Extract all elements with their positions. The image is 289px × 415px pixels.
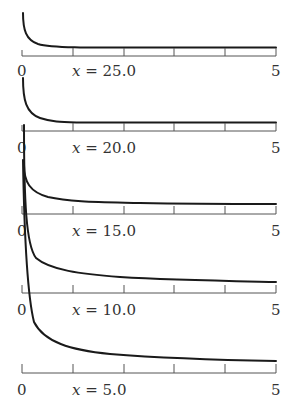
tick-label-left: 0 (17, 62, 27, 80)
panel-title: x = 5.0 (72, 381, 126, 399)
tick-label-right: 5 (271, 381, 281, 399)
panel-title: x = 20.0 (72, 139, 136, 157)
stacked-decay-chart: 0 x = 25.0 5 0 x = 20.0 5 0 x = 15.0 5 (0, 0, 289, 415)
panel-title: x = 15.0 (72, 222, 136, 240)
panel-x-25: 0 x = 25.0 5 (17, 13, 281, 80)
tick-label-left: 0 (17, 301, 27, 319)
panel-title: x = 25.0 (72, 62, 136, 80)
tick-label-right: 5 (271, 139, 281, 157)
curve-x-25 (23, 13, 276, 48)
curve-x-20 (23, 78, 276, 123)
tick-label-right: 5 (271, 62, 281, 80)
panel-title: x = 10.0 (72, 301, 136, 319)
panel-x-20: 0 x = 20.0 5 (17, 78, 281, 157)
tick-label-right: 5 (271, 222, 281, 240)
curve-x-15 (24, 165, 276, 204)
tick-label-left: 0 (17, 381, 27, 399)
curve-x-5 (23, 160, 276, 361)
tick-label-right: 5 (271, 301, 281, 319)
panel-x-5: 0 x = 5.0 5 (17, 160, 281, 399)
panel-x-15: 0 x = 15.0 5 (17, 165, 281, 240)
panel-x-10: 0 x = 10.0 5 (17, 125, 281, 319)
